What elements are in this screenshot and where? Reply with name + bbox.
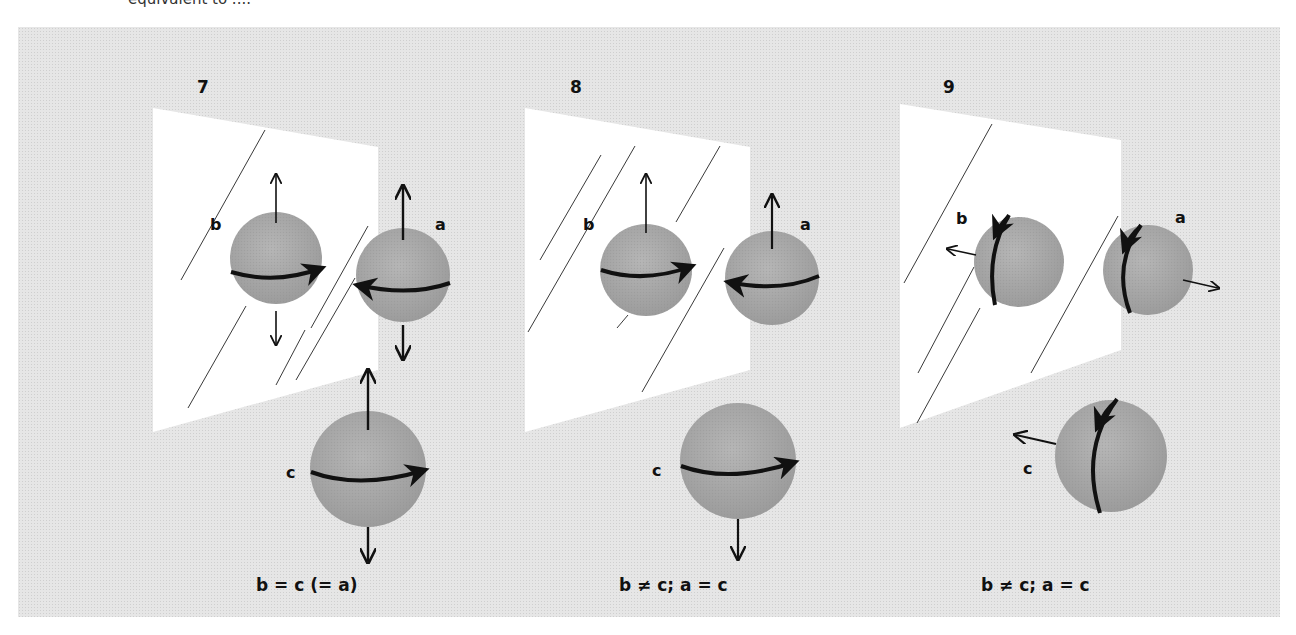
panel-caption: b = c (= a)	[256, 575, 357, 595]
label-b: b	[956, 209, 967, 228]
mirror-symmetry-diagram: 7 b a	[0, 0, 1296, 635]
panel-number: 9	[943, 77, 955, 97]
panel-number: 7	[197, 77, 209, 97]
sphere-c	[1016, 399, 1167, 513]
label-b: b	[210, 215, 221, 234]
sphere-a	[1103, 225, 1218, 315]
spin-left-arrow-icon	[1016, 435, 1056, 444]
panel-caption: b ≠ c; a = c	[619, 575, 728, 595]
panel-8: 8 b a c b ≠ c; a = c	[525, 77, 819, 595]
label-a: a	[800, 215, 811, 234]
label-c: c	[1023, 459, 1032, 478]
sphere-c	[680, 403, 796, 558]
label-b: b	[583, 215, 594, 234]
sphere-c	[310, 371, 426, 561]
panel-number: 8	[570, 77, 582, 97]
label-c: c	[286, 463, 295, 482]
panel-caption: b ≠ c; a = c	[981, 575, 1090, 595]
label-a: a	[1175, 208, 1186, 227]
label-c: c	[652, 461, 661, 480]
panel-9: 9 b a c	[900, 77, 1218, 595]
label-a: a	[435, 215, 446, 234]
panel-7: 7 b a	[153, 77, 450, 595]
